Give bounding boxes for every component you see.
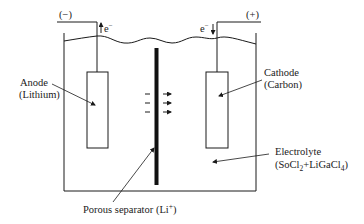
electrolyte-pointer-arrow-icon	[213, 154, 269, 162]
electrolyte-label: Electrolyte	[275, 146, 321, 157]
cathode-electrode	[206, 72, 228, 148]
separator-pointer-arrow-icon	[113, 148, 154, 202]
anode-sublabel: (Lithium)	[19, 89, 60, 101]
negative-terminal-label: (−)	[59, 9, 72, 21]
anode-electrode	[87, 72, 108, 148]
electrolyte-surface	[64, 36, 256, 44]
electron-label-cathode: e−	[200, 22, 209, 34]
cathode-sublabel: (Carbon)	[264, 79, 302, 91]
electron-label-anode: e−	[104, 22, 113, 34]
cathode-wire	[217, 22, 261, 72]
porous-separator	[155, 48, 159, 185]
anode-label: Anode	[20, 77, 48, 88]
separator-label: Porous separator (Li+)	[83, 202, 177, 216]
anode-wire	[57, 22, 97, 72]
battery-cell-diagram: (−) (+) e− e− Anode (Lithium) Cathode (C…	[0, 0, 364, 224]
electrolyte-formula: (SoCl2+LiGaCl4)	[275, 159, 348, 173]
cathode-label: Cathode	[264, 67, 299, 78]
positive-terminal-label: (+)	[246, 9, 259, 21]
